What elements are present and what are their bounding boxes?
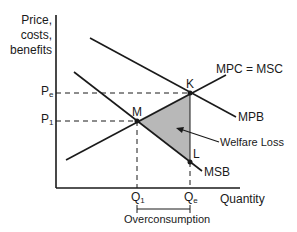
point-k bbox=[188, 91, 193, 96]
point-k-label: K bbox=[186, 78, 194, 91]
mpb-label: MPB bbox=[238, 111, 264, 124]
y-axis-label-line-1: Price, bbox=[6, 13, 52, 28]
mpb-curve bbox=[90, 38, 236, 117]
point-m bbox=[135, 119, 140, 124]
price-tick-pe: Pe bbox=[41, 85, 53, 101]
y-axis-label-line-3: benefits bbox=[6, 43, 52, 58]
overconsumption-label: Overconsumption bbox=[124, 213, 210, 226]
point-l bbox=[188, 160, 193, 165]
mpc-msc-curve bbox=[66, 75, 226, 160]
p1-sub: 1 bbox=[49, 118, 53, 127]
price-tick-p1: P1 bbox=[41, 113, 53, 129]
msb-label: MSB bbox=[204, 166, 230, 179]
q1-base: Q bbox=[131, 190, 140, 204]
point-l-label: L bbox=[193, 148, 200, 161]
qe-sub: e bbox=[193, 196, 197, 205]
quantity-tick-q1: Q1 bbox=[131, 191, 145, 207]
pe-sub: e bbox=[49, 90, 53, 99]
mpc-msc-label: MPC = MSC bbox=[216, 63, 283, 76]
p1-base: P bbox=[41, 112, 49, 126]
y-axis-label: Price, costs, benefits bbox=[6, 13, 52, 58]
point-m-label: M bbox=[132, 106, 142, 119]
pe-base: P bbox=[41, 84, 49, 98]
y-axis-label-line-2: costs, bbox=[6, 28, 52, 43]
x-axis-label: Quantity bbox=[220, 193, 265, 206]
qe-base: Q bbox=[184, 190, 193, 204]
quantity-tick-qe: Qe bbox=[184, 191, 198, 207]
q1-sub: 1 bbox=[140, 196, 144, 205]
welfare-loss-label: Welfare Loss bbox=[220, 136, 284, 149]
